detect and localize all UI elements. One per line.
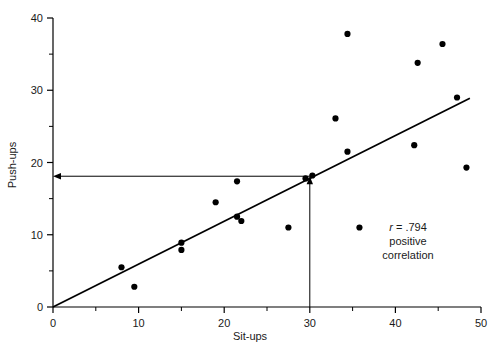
x-tick-label: 40 — [389, 317, 401, 329]
data-point — [415, 60, 421, 66]
data-point — [302, 175, 308, 181]
y-tick-label: 30 — [31, 84, 43, 96]
y-axis-title: Push-ups — [6, 141, 18, 188]
horizontal-reference-arrow-head — [53, 173, 61, 179]
data-point — [411, 142, 417, 148]
x-tick-label: 30 — [304, 317, 316, 329]
data-point — [285, 224, 291, 230]
annotation-direction-1: positive — [389, 235, 426, 247]
data-point — [454, 94, 460, 100]
regression-line — [53, 98, 470, 307]
correlation-annotation: r = .794 positive correlation — [382, 221, 433, 261]
x-tick-label: 0 — [50, 317, 56, 329]
y-tick-label: 10 — [31, 229, 43, 241]
svg-text:r = .794: r = .794 — [389, 221, 427, 233]
x-tick-label: 10 — [132, 317, 144, 329]
y-tick-labels: 010203040 — [31, 12, 43, 313]
data-point — [356, 224, 362, 230]
scatter-plot-figure: 010203040 01020304050 Sit-ups Push-ups r… — [0, 0, 493, 352]
data-point — [238, 218, 244, 224]
data-point — [463, 164, 469, 170]
x-tick-labels: 01020304050 — [50, 317, 487, 329]
data-point — [178, 240, 184, 246]
data-point — [439, 41, 445, 47]
x-tick-label: 50 — [475, 317, 487, 329]
y-tick-label: 0 — [37, 301, 43, 313]
y-tick-label: 40 — [31, 12, 43, 24]
data-point — [178, 247, 184, 253]
x-tick-label: 20 — [218, 317, 230, 329]
data-point — [344, 31, 350, 37]
data-point — [332, 115, 338, 121]
plot-canvas: 010203040 01020304050 Sit-ups Push-ups r… — [0, 0, 493, 352]
x-axis-ticks — [53, 307, 481, 313]
data-point — [213, 199, 219, 205]
annotation-r-value: = .794 — [393, 221, 427, 233]
annotation-direction-2: correlation — [382, 249, 433, 261]
data-point — [344, 149, 350, 155]
data-point — [131, 284, 137, 290]
y-tick-label: 20 — [31, 157, 43, 169]
data-point — [234, 178, 240, 184]
y-axis-ticks — [47, 18, 53, 307]
data-point — [118, 264, 124, 270]
x-axis-title: Sit-ups — [233, 330, 268, 342]
data-point — [309, 172, 315, 178]
